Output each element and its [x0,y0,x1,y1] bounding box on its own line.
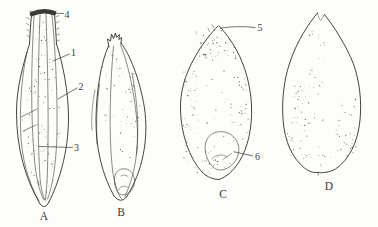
part-label-4: 4 [65,9,70,20]
part-label-1: 1 [71,47,76,58]
stipple-texture-a [22,22,60,193]
specimen-letter-d: D [325,180,333,192]
specimen-letter-b: B [117,206,125,218]
stipple-texture-c [182,30,249,177]
leader-line-3 [39,147,73,148]
specimen-letter-a: A [40,210,49,222]
apex-notch [318,13,325,21]
specimen-d-seed: D [283,13,361,192]
part-label-2: 2 [79,81,84,92]
specimen-c-seed: 5 6 C [180,22,262,200]
leader-line-5 [221,27,256,29]
floret-cap [32,11,54,14]
botanical-figure: 4 1 2 3 A B [0,0,378,227]
torn-apex [108,33,122,47]
figure-canvas: 4 1 2 3 A B [0,0,378,227]
specimen-b-floret: B [92,33,146,218]
part-label-5: 5 [258,22,263,33]
part-label-3: 3 [74,142,79,153]
stipple-texture-d [287,31,357,167]
specimen-a-floret: 4 1 2 3 A [17,9,84,222]
specimen-letter-c: C [219,188,227,200]
stipple-texture-b [101,55,140,162]
part-label-6: 6 [255,151,260,162]
embryo-area-b [114,169,134,195]
